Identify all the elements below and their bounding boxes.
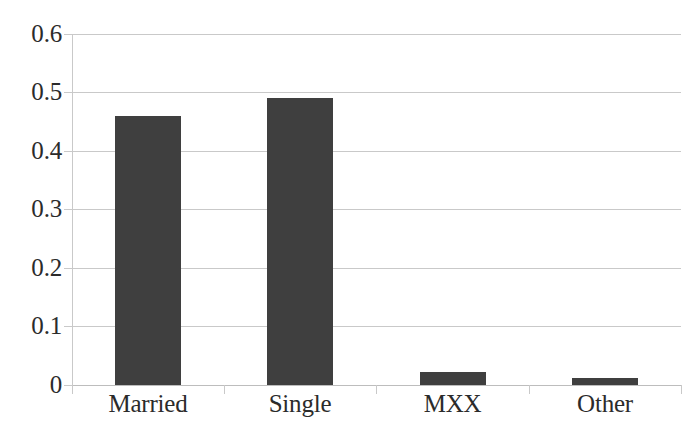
x-tick-label-married: Married [72, 391, 224, 416]
y-tick-label: 0.6 [4, 21, 62, 46]
y-tick-label: 0 [4, 372, 62, 397]
x-tick-label-other: Other [529, 391, 681, 416]
bar-mxx[interactable] [420, 372, 486, 385]
bar-other[interactable] [572, 378, 638, 385]
x-axis-tick [681, 385, 682, 394]
bar-chart: 0.6 0.5 0.4 0.3 0.2 0.1 0 Married Single [0, 0, 698, 440]
bar-single[interactable] [267, 98, 333, 385]
y-tick-label: 0.4 [4, 138, 62, 163]
y-axis-tick [64, 92, 72, 93]
x-tick-label-mxx: MXX [376, 391, 529, 416]
y-tick-label: 0.3 [4, 196, 62, 221]
y-tick-label: 0.1 [4, 313, 62, 338]
y-axis-tick [64, 151, 72, 152]
y-tick-label: 0.5 [4, 79, 62, 104]
x-tick-label-single: Single [224, 391, 376, 416]
y-axis-tick [64, 209, 72, 210]
y-axis-tick [64, 326, 72, 327]
plot-area [72, 34, 681, 385]
y-axis-tick [64, 268, 72, 269]
y-tick-label: 0.2 [4, 255, 62, 280]
gridline [72, 92, 681, 93]
y-axis-tick [64, 34, 72, 35]
bar-married[interactable] [115, 116, 181, 385]
y-axis-tick [64, 385, 72, 386]
gridline [72, 34, 681, 35]
